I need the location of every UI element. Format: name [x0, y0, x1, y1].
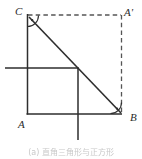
- segment-hypotenuse-c-to-b: [29, 17, 121, 113]
- geometry-figure: C A' B A (a) 直角三角形与正方形: [0, 0, 142, 159]
- vertex-label-a-prime: A': [124, 7, 133, 18]
- vertex-label-b: B: [130, 112, 137, 123]
- figure-caption: (a) 直角三角形与正方形: [0, 148, 142, 158]
- figure-canvas: [0, 0, 142, 159]
- vertex-label-c: C: [15, 6, 22, 17]
- vertex-label-a: A: [18, 119, 25, 130]
